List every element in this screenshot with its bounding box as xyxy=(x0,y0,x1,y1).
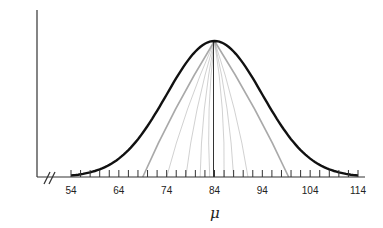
x-tick-labels: 5464748494104114 xyxy=(65,185,366,196)
tick-label: 104 xyxy=(302,185,319,196)
tick-label: 54 xyxy=(65,185,77,196)
converging-line xyxy=(167,41,215,177)
x-ticks xyxy=(71,170,358,177)
normal-curve xyxy=(71,41,358,176)
converging-lines xyxy=(143,41,289,177)
tick-label: 64 xyxy=(113,185,125,196)
chart: 5464748494104114 μ xyxy=(0,0,383,228)
x-axis-label: μ xyxy=(210,204,220,222)
tick-label: 74 xyxy=(161,185,173,196)
converging-line xyxy=(215,41,289,177)
converging-line xyxy=(143,41,215,177)
axis-break-icon xyxy=(44,172,55,184)
tick-label: 84 xyxy=(209,185,221,196)
converging-line xyxy=(186,41,215,177)
tick-label: 94 xyxy=(257,185,269,196)
tick-label: 114 xyxy=(350,185,366,196)
